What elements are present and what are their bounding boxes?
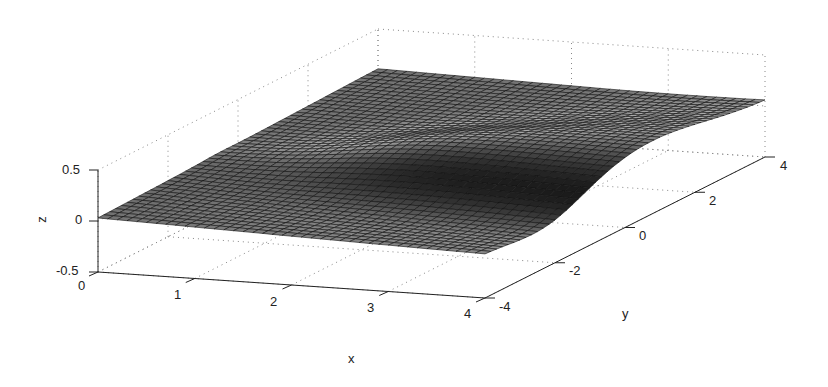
y-axis-label: y bbox=[622, 306, 629, 321]
z-tick-label: -0.5 bbox=[56, 263, 78, 278]
x-tick-label: 3 bbox=[367, 300, 374, 315]
y-tick-label: 4 bbox=[780, 158, 787, 173]
y-tick-label: -4 bbox=[499, 299, 511, 314]
x-tick-label: 2 bbox=[270, 294, 277, 309]
z-tick-label: 0.5 bbox=[62, 162, 80, 177]
x-tick-label: 0 bbox=[78, 278, 85, 293]
surface-mesh bbox=[98, 69, 765, 254]
y-tick-label: 0 bbox=[639, 228, 646, 243]
x-axis-label: x bbox=[348, 351, 355, 366]
y-tick-label: -2 bbox=[569, 263, 581, 278]
z-axis-label: z bbox=[34, 216, 49, 223]
z-tick-label: 0 bbox=[75, 212, 82, 227]
x-tick-label: 4 bbox=[464, 306, 471, 321]
surface-plot bbox=[0, 0, 828, 387]
x-tick-label: 1 bbox=[174, 287, 181, 302]
y-tick-label: 2 bbox=[709, 193, 716, 208]
